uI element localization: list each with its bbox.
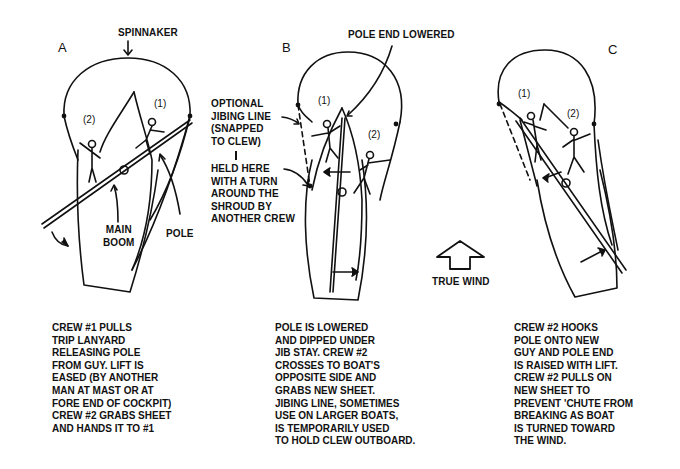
panel-a-crew2-label: (2) [83, 114, 95, 125]
spinnaker-label: SPINNAKER [118, 27, 178, 40]
panel-b-drawing [282, 46, 402, 300]
true-wind-label: TRUE WIND [432, 276, 490, 289]
panel-a-caption: CREW #1 PULLS TRIP LANYARD RELEASING POL… [52, 322, 171, 435]
panel-a-drawing [42, 41, 192, 292]
pole-b [330, 118, 342, 292]
optional-jibing-line-label: OPTIONAL JIBING LINE (SNAPPED TO CLEW) [211, 98, 271, 148]
true-wind-arrow-icon [437, 241, 484, 269]
jibing-line-divider [235, 151, 237, 160]
panel-c-letter: C [608, 42, 617, 57]
held-here-label: HELD HERE WITH A TURN AROUND THE SHROUD … [211, 163, 295, 226]
pole-label: POLE [166, 228, 194, 241]
panel-b-crew2-label: (2) [368, 129, 380, 140]
panel-c-caption: CREW #2 HOOKS POLE ONTO NEW GUY AND POLE… [514, 322, 633, 448]
panel-b-letter: B [282, 40, 291, 55]
panel-c-drawing [497, 50, 626, 297]
panel-c-crew2-label: (2) [567, 108, 579, 119]
hull-c [537, 170, 617, 297]
spinnaker-a [64, 58, 190, 116]
main-boom-label: MAIN BOOM [103, 224, 135, 249]
panel-a-crew1-label: (1) [154, 98, 166, 109]
panel-b-crew1-label: (1) [318, 95, 330, 106]
pole-a [42, 120, 190, 224]
panel-c-crew1-label: (1) [518, 88, 530, 99]
pole-end-lowered-label: POLE END LOWERED [348, 29, 455, 42]
panel-a-letter: A [58, 40, 67, 55]
panel-b-caption: POLE IS LOWERED AND DIPPED UNDER JIB STA… [275, 322, 415, 448]
mainsail-a [100, 92, 134, 152]
